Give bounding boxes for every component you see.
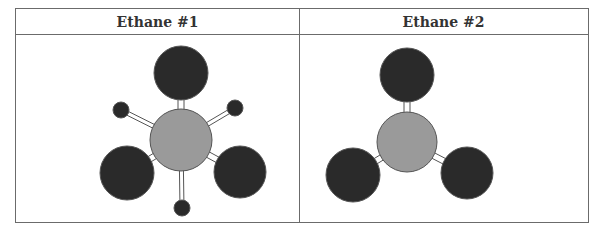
large-atom [154, 46, 208, 100]
large-atom [100, 146, 154, 200]
small-atom [174, 200, 190, 216]
ethane-1-molecule [100, 46, 266, 216]
large-atom [441, 147, 493, 199]
central-atom [150, 109, 212, 171]
ethane-2-molecule [326, 48, 493, 202]
small-atom [113, 102, 129, 118]
large-atom [380, 48, 434, 102]
molecule-diagrams [0, 0, 600, 234]
small-atom [227, 100, 243, 116]
large-atom [214, 146, 266, 198]
large-atom [326, 148, 380, 202]
central-atom [377, 112, 437, 172]
